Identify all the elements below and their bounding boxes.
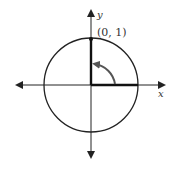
x-axis-label: x xyxy=(158,88,164,99)
point-0-1 xyxy=(89,37,93,41)
diagram-canvas: y x (0, 1) xyxy=(0,0,176,174)
y-axis-label: y xyxy=(96,9,103,20)
unit-circle-diagram: y x (0, 1) xyxy=(0,0,176,174)
point-label: (0, 1) xyxy=(97,26,127,39)
angle-arc-arrow xyxy=(95,64,115,84)
